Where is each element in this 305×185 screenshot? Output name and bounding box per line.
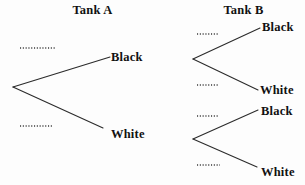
tank-a-title: Tank A <box>62 4 123 17</box>
tank-b-upper-tree <box>193 28 260 90</box>
tank-a-tree <box>13 48 110 128</box>
probability-tree-figure: Tank A Tank B Black White Black White Bl… <box>0 0 305 185</box>
tank-b-upper-branch-black-line <box>193 28 260 59</box>
tank-b-lower-tree <box>193 110 258 167</box>
tank-b-lower-branch-white-line <box>193 139 257 167</box>
tank-a-outcome-black-label: Black <box>111 51 143 64</box>
tank-a-branch-white-line <box>13 87 103 128</box>
tank-b-lower-outcome-black-label: Black <box>261 105 293 118</box>
tank-b-title: Tank B <box>213 4 274 17</box>
tank-b-upper-outcome-black-label: Black <box>262 21 294 34</box>
tank-b-lower-branch-black-line <box>193 110 258 139</box>
tank-a-outcome-white-label: White <box>111 128 145 141</box>
tank-b-lower-outcome-white-label: White <box>261 166 295 179</box>
tank-a-branch-black-line <box>13 57 110 87</box>
tank-b-upper-outcome-white-label: White <box>260 84 294 97</box>
